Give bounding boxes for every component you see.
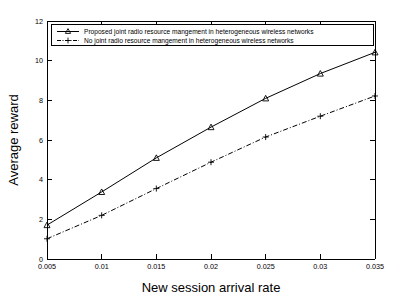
x-tick-label-0: 0.005: [38, 262, 56, 271]
data-point-plus: [44, 236, 50, 242]
line-chart: 0 2 4 6 8 10 12 0.005: [0, 0, 401, 301]
x-tick-labels: 0.005 0.01 0.015 0.02 0.025 0.03 0.035: [38, 262, 384, 271]
legend-entry-nojoint[interactable]: No joint radio resource mangement in het…: [57, 37, 294, 45]
y-tick-label-4: 4: [39, 175, 43, 184]
x-tick-label-4: 0.025: [257, 262, 275, 271]
data-point-plus: [263, 134, 269, 140]
series-line-1: [47, 96, 375, 239]
legend[interactable]: Proposed joint radio resource mangement …: [51, 24, 373, 45]
x-tick-label-3: 0.02: [204, 262, 218, 271]
x-axis-title: New session arrival rate: [142, 280, 281, 295]
x-tick-label-5: 0.03: [313, 262, 327, 271]
series-proposed: [44, 49, 378, 227]
y-tick-label-12: 12: [35, 17, 43, 26]
series-layer: [44, 49, 378, 241]
legend-entry-proposed[interactable]: Proposed joint radio resource mangement …: [57, 28, 314, 36]
y-axis-title: Average reward: [6, 94, 21, 186]
data-point-plus: [208, 159, 214, 165]
figure-canvas: 0 2 4 6 8 10 12 0.005: [0, 0, 401, 301]
axes-frame: [47, 21, 375, 259]
data-point-plus: [317, 113, 323, 119]
y-tick-label-10: 10: [35, 56, 43, 65]
y-tick-label-6: 6: [39, 136, 43, 145]
x-tick-label-6: 0.035: [366, 262, 384, 271]
x-tick-label-1: 0.01: [95, 262, 109, 271]
data-point-plus: [372, 93, 378, 99]
data-point-plus: [153, 186, 159, 192]
series-nojoint: [44, 93, 378, 242]
y-tick-labels: 0 2 4 6 8 10 12: [35, 17, 43, 264]
x-tick-label-2: 0.015: [147, 262, 165, 271]
y-tick-label-8: 8: [39, 96, 43, 105]
legend-label-nojoint: No joint radio resource mangement in het…: [84, 37, 294, 45]
y-ticks: [47, 21, 375, 259]
data-point-plus: [99, 212, 105, 218]
x-ticks: [47, 21, 375, 259]
series-line-0: [47, 52, 375, 225]
y-tick-label-2: 2: [39, 215, 43, 224]
legend-label-proposed: Proposed joint radio resource mangement …: [84, 28, 314, 36]
